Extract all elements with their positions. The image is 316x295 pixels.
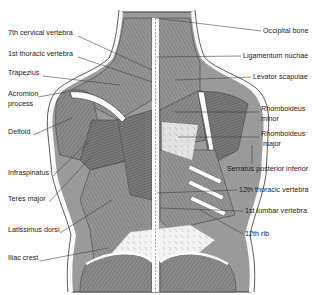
label-12th-rib: 12th rib <box>245 230 269 239</box>
label-rhomboideus-major-2: major <box>263 140 281 149</box>
label-process: process <box>8 100 33 109</box>
label-acromion: Acromion <box>8 90 38 99</box>
label-rhomboideus-major-1: Rhomboideus <box>261 130 305 139</box>
label-teres-major: Teres major <box>8 195 46 204</box>
label-occipital-bone: Occipital bone <box>263 27 309 36</box>
label-deltoid: Deltoid <box>8 128 30 137</box>
label-levator-scapulae: Levator scapulae <box>253 73 308 82</box>
label-rhomboideus-minor-1: Rhomboideus <box>261 105 305 114</box>
label-1st-lumbar-vertebra: 1st lumbar vertebra <box>245 207 307 216</box>
label-ligamentum-nuchae: Ligamentum nuchae <box>243 52 308 61</box>
label-7th-cervical-vertebra: 7th cervical vertebra <box>8 29 73 38</box>
label-12th-thoracic-vertebra: 12th thoracic vertebra <box>239 186 309 195</box>
label-rhomboideus-minor-2: minor <box>261 115 279 124</box>
label-trapezius: Trapezius <box>8 69 39 78</box>
spine <box>152 18 159 292</box>
label-1st-thoracic-vertebra: 1st thoracic vertebra <box>8 50 73 59</box>
label-serratus-posterior-inferior: Serratus posterior inferior <box>227 165 308 174</box>
label-infraspinatus: Infraspinatus <box>8 169 49 178</box>
label-latissimus-dorsi: Latissimus dorsi <box>8 226 60 235</box>
label-iliac-crest: Iliac crest <box>8 254 38 263</box>
